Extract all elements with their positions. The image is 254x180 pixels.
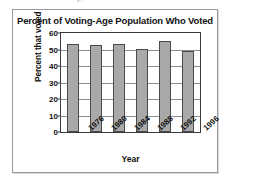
chart-figure: Percent of Voting-Age Population Who Vot… [12,9,218,173]
y-tick-label: 60 [49,29,58,38]
y-tick-label: 30 [49,78,58,87]
y-tick-label: 20 [49,95,58,104]
y-tick-label: 0 [54,128,58,137]
plot-area: 0102030405060 [60,32,201,133]
y-tick-mark [58,99,61,100]
y-tick-label: 50 [49,45,58,54]
y-tick-mark [58,49,61,50]
gridline [61,116,200,117]
y-tick-mark [58,132,61,133]
y-tick-mark [58,115,61,116]
y-tick-mark [58,33,61,34]
y-axis-label: Percent that voted [33,11,43,82]
y-tick-label: 10 [49,111,58,120]
x-tick-label: 1996 [202,114,221,133]
gridline [61,99,200,100]
bar [67,44,79,132]
gridline [61,66,200,67]
y-tick-mark [58,82,61,83]
gridline [61,50,200,51]
chart-title: Percent of Voting-Age Population Who Vot… [13,15,217,26]
cut-off-text-fragment: En Val Defe Gate Galy, Len Rieen [0,0,254,7]
cut-off-text: En Val Defe Gate Galy, Len Rieen [0,0,122,1]
gridline [61,83,200,84]
x-axis-label: Year [60,154,201,164]
y-tick-label: 40 [49,62,58,71]
y-tick-mark [58,66,61,67]
